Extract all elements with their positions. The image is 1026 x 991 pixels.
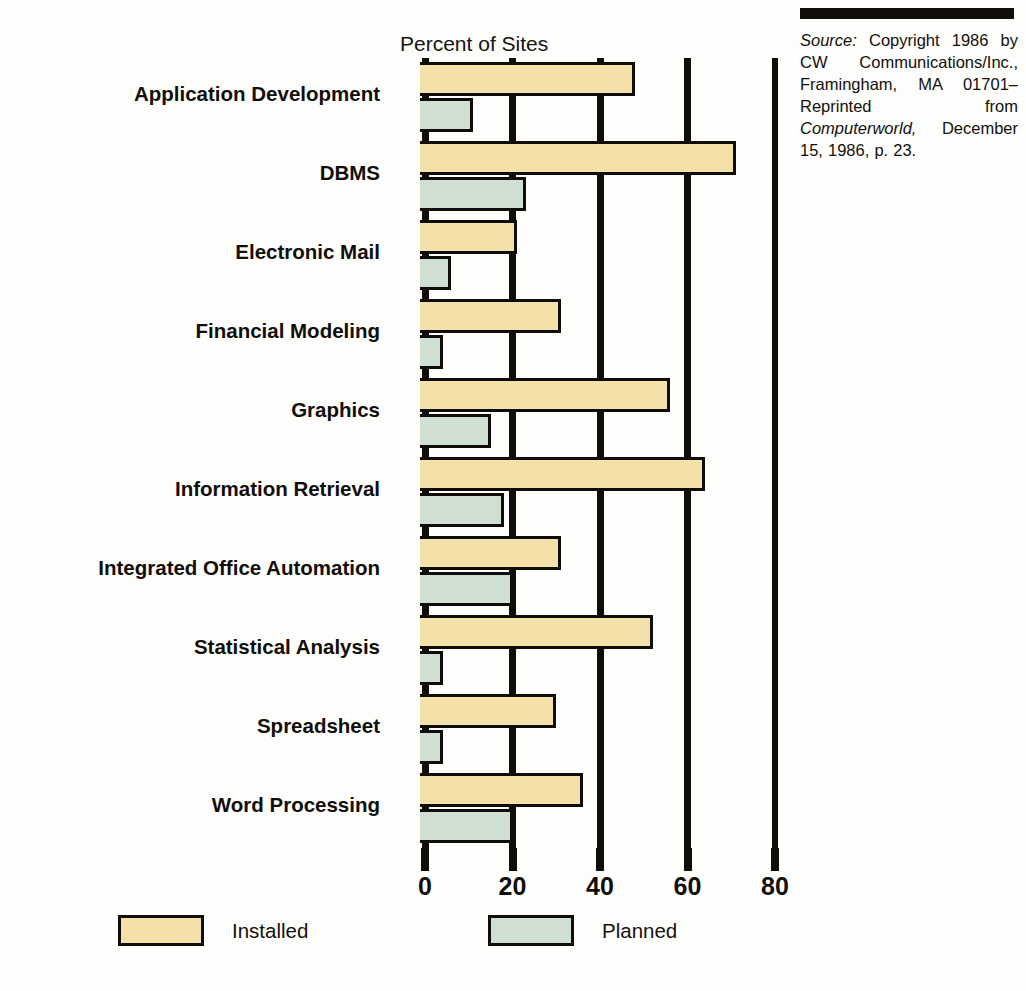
bar-row: Statistical Analysis (0, 611, 800, 690)
x-tick-label-60: 60 (653, 872, 723, 901)
bar-planned (420, 809, 513, 843)
legend-label: Installed (232, 919, 308, 943)
bar-installed (420, 694, 556, 728)
bar-installed (420, 773, 583, 807)
category-label: Word Processing (0, 795, 380, 816)
bar-row: Integrated Office Automation (0, 532, 800, 611)
source-note-text: Source: Copyright 1986 by CW Communicati… (800, 30, 1018, 162)
bar-planned (420, 651, 443, 685)
category-label: Integrated Office Automation (0, 558, 380, 579)
bar-row: Financial Modeling (0, 295, 800, 374)
bar-row: Electronic Mail (0, 216, 800, 295)
bar-row: Graphics (0, 374, 800, 453)
bar-installed (420, 62, 635, 96)
category-label: Information Retrieval (0, 479, 380, 500)
bar-row: Word Processing (0, 769, 800, 848)
chart-legend: InstalledPlanned (0, 915, 800, 965)
bar-installed (420, 457, 705, 491)
category-label: Financial Modeling (0, 321, 380, 342)
bar-planned (420, 572, 513, 606)
bar-chart: Percent of Sites Application Development… (0, 0, 800, 991)
bar-planned (420, 98, 473, 132)
legend-swatch-planned (488, 915, 574, 946)
source-label: Source: (800, 31, 857, 49)
bar-planned (420, 335, 443, 369)
bar-installed (420, 220, 517, 254)
axis-title: Percent of Sites (400, 32, 548, 56)
x-tick-label-80: 80 (740, 872, 810, 901)
legend-item-installed[interactable]: Installed (118, 915, 308, 946)
bar-planned (420, 177, 526, 211)
x-tick-label-0: 0 (390, 872, 460, 901)
bar-installed (420, 536, 561, 570)
category-label: Electronic Mail (0, 242, 380, 263)
x-tick-40 (596, 848, 604, 871)
bar-installed (420, 141, 736, 175)
bar-planned (420, 414, 491, 448)
x-tick-20 (509, 848, 517, 871)
bar-installed (420, 615, 653, 649)
bar-planned (420, 730, 443, 764)
category-label: Spreadsheet (0, 716, 380, 737)
chart-page: Source: Copyright 1986 by CW Communicati… (0, 0, 1026, 991)
bar-row: Spreadsheet (0, 690, 800, 769)
source-publication: Computerworld, (800, 119, 916, 137)
bar-installed (420, 378, 670, 412)
bar-row: Information Retrieval (0, 453, 800, 532)
bar-planned (420, 256, 451, 290)
legend-swatch-installed (118, 915, 204, 946)
bar-planned (420, 493, 504, 527)
bar-rows: Application DevelopmentDBMSElectronic Ma… (0, 58, 800, 848)
x-axis: 020406080 (0, 848, 800, 908)
category-label: Graphics (0, 400, 380, 421)
plot-area: Application DevelopmentDBMSElectronic Ma… (0, 58, 800, 848)
x-tick-80 (771, 848, 779, 871)
x-tick-label-40: 40 (565, 872, 635, 901)
category-label: DBMS (0, 163, 380, 184)
bar-installed (420, 299, 561, 333)
source-note: Source: Copyright 1986 by CW Communicati… (800, 8, 1018, 162)
bar-row: DBMS (0, 137, 800, 216)
x-tick-60 (684, 848, 692, 871)
source-rule (800, 8, 1014, 19)
legend-label: Planned (602, 919, 677, 943)
category-label: Application Development (0, 84, 380, 105)
bar-row: Application Development (0, 58, 800, 137)
legend-item-planned[interactable]: Planned (488, 915, 677, 946)
x-tick-label-20: 20 (478, 872, 548, 901)
category-label: Statistical Analysis (0, 637, 380, 658)
x-tick-0 (421, 848, 429, 871)
